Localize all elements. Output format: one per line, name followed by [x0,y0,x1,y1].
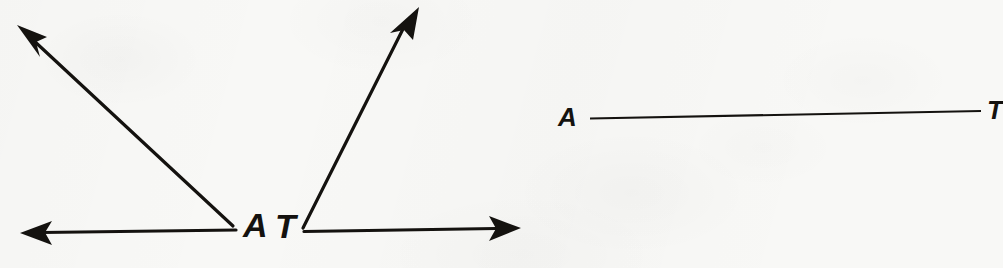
angle-a-ray-left-horizontal [42,230,236,233]
angle-t-ray-upper-right-arrowhead [390,7,419,40]
angle-a-vertex-label: A [243,208,268,242]
angle-a-ray-upper-left-arrowhead [17,25,47,57]
segment-end-label: T [987,97,1003,123]
figure-page: A T A T [0,0,1003,268]
segment-at-line [590,111,981,119]
geometry-figure-canvas [0,0,1003,268]
angle-t-group [303,7,521,241]
angle-t-ray-right-horizontal [304,229,496,232]
angle-t-vertex-label: T [275,209,296,243]
angle-a-ray-upper-left [32,39,233,226]
angle-t-ray-upper-right [303,27,404,228]
angle-a-group [17,25,236,245]
segment-start-label: A [558,104,577,130]
segment-at-group [590,111,981,119]
